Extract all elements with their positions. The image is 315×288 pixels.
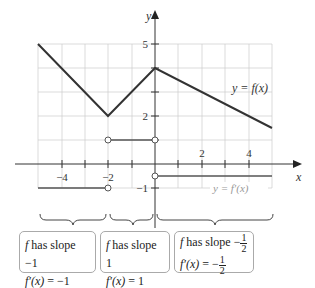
tick-y-2: 2: [143, 110, 149, 122]
tick-y-m1: −1: [136, 182, 148, 194]
tick-y-5: 5: [143, 38, 149, 50]
x-axis-label: x: [295, 170, 302, 184]
f-label: y = f(x): [231, 81, 268, 95]
axes: [15, 18, 295, 228]
fraction-half: 12: [240, 233, 247, 254]
tick-x-4: 4: [246, 147, 252, 159]
fraction-half: 12: [219, 255, 226, 276]
annotation-box-slope-1: f has slope 1 f′(x) = 1: [100, 231, 170, 273]
tick-x-m2: −2: [102, 171, 114, 183]
tick-x-m4: −4: [56, 171, 68, 183]
interval-braces: [40, 214, 273, 225]
y-axis-label: y: [145, 9, 152, 23]
fprime-label: y = f′(x): [212, 182, 249, 195]
annotation-box-slope-neg1: f has slope −1 f′(x) = −1: [19, 231, 96, 273]
y-axis-arrow: [151, 10, 159, 19]
annotation-box-slope-neg-half: f has slope −12 f′(x) = −12: [174, 231, 254, 273]
x-axis-arrow: [293, 160, 302, 168]
tick-x-2: 2: [199, 147, 205, 159]
